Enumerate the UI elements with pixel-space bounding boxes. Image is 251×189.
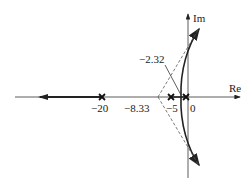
breakaway-leader — [165, 65, 181, 95]
locus-arrow-left — [38, 94, 48, 100]
centroid-label: −8.33 — [124, 102, 150, 114]
root-locus-diagram: Im Re −2.32 −20 −8.33 −5 0 — [0, 0, 251, 189]
pole-label-minus-5: −5 — [166, 102, 178, 114]
real-axis-label: Re — [229, 82, 241, 94]
breakaway-label: −2.32 — [139, 53, 164, 65]
locus-branch-upper — [181, 29, 199, 97]
imag-axis-label: Im — [193, 12, 206, 24]
pole-label-0: 0 — [190, 102, 196, 114]
pole-label-minus-20: −20 — [91, 102, 109, 114]
